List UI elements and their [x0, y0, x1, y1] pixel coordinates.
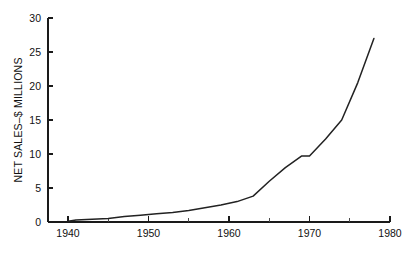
line-chart: 051015202530 19401950196019701980 NET SA…	[0, 0, 418, 254]
y-tick-label: 0	[35, 216, 41, 228]
x-tick-label: 1970	[298, 227, 322, 239]
y-tick-label: 30	[29, 12, 41, 24]
chart-container: 051015202530 19401950196019701980 NET SA…	[0, 0, 418, 254]
y-tick-label: 15	[29, 114, 41, 126]
x-tick-label: 1950	[137, 227, 161, 239]
y-tick-label: 20	[29, 80, 41, 92]
x-tick-label: 1980	[378, 227, 402, 239]
y-axis-title: NET SALES–$ MILLIONS	[12, 57, 24, 182]
x-tick-label: 1940	[56, 227, 80, 239]
y-tick-label: 5	[35, 182, 41, 194]
y-axis: 051015202530	[29, 12, 53, 228]
data-series-group	[68, 38, 374, 221]
y-tick-label: 25	[29, 46, 41, 58]
y-tick-label: 10	[29, 148, 41, 160]
x-tick-label: 1960	[217, 227, 241, 239]
series-line	[68, 38, 374, 221]
